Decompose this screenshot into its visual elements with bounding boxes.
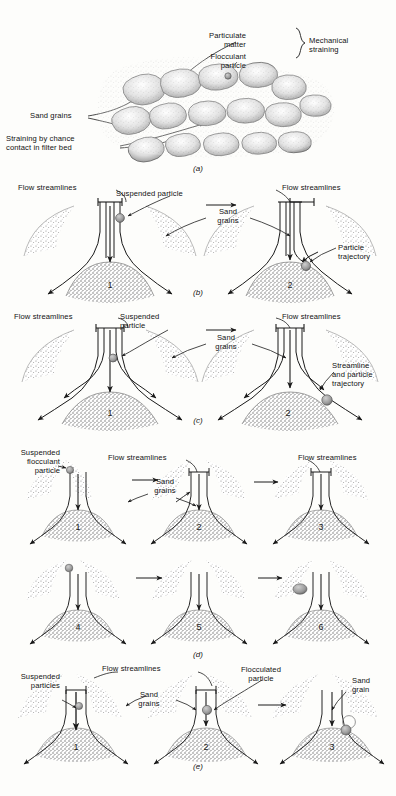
label-flow-streamlines-b-left: Flow streamlines [18,183,108,192]
label-flow-streamlines-c-left: Flow streamlines [14,312,106,321]
captured-particle-glyph [322,395,332,405]
panel-d-cell-3: 3 [273,460,369,544]
flocculant-particle-glyph [225,73,231,79]
label-flocculated-particle: Flocculated particle [226,665,296,683]
filtration-mechanisms-figure: 1 2 [0,0,396,796]
cell-number: 2 [196,522,201,532]
label-suspended-particle-b: Suspended particle [116,189,216,198]
label-flow-streamlines-e: Flow streamlines [102,664,194,673]
captured-particle-glyph [301,261,310,270]
label-mechanical-straining: Mechanical straining [309,36,379,54]
panel-c-cell-1: 1 [22,324,198,431]
label-flow-streamlines-d-right: Flow streamlines [298,453,392,462]
panel-e-graphic: 1 2 3 [18,672,384,764]
label-suspended-particle-c: Suspended particle [120,312,182,330]
flocculant-particle-glyph [65,564,73,572]
cell-number: 6 [318,622,323,632]
panel-letter-b: (b) [178,288,218,297]
label-sand-grains-e: Sand grains [126,690,172,708]
cell-number: 2 [287,280,292,290]
label-flow-streamlines-d-mid: Flow streamlines [108,453,200,462]
label-sand-grains-a: Sand grains [30,111,96,120]
cell-number: 3 [329,742,334,752]
cell-number: 2 [285,408,290,418]
panel-e-cell-2: 2 [148,674,258,764]
panel-letter-a: (a) [178,164,218,173]
brace-mechanical-straining [296,28,305,58]
label-sand-grain-e: Sand grain [352,676,392,694]
sand-cluster-stipple [98,57,334,157]
attached-particle-glyph [293,584,307,594]
panel-d-graphic: 1 2 3 [26,460,369,644]
panel-letter-c: (c) [178,416,218,425]
panel-b-cell-1: 1 [24,198,196,303]
suspended-particle-glyph [75,702,82,709]
label-particle-trajectory: Particle trajectory [338,243,394,261]
cell-number: 1 [73,742,78,752]
panel-letter-d: (d) [178,650,218,659]
label-suspended-particles-e: Suspended particles [2,672,60,690]
suspended-particle-glyph [109,354,117,362]
label-flow-streamlines-c-right: Flow streamlines [282,312,376,321]
suspended-particle-glyph [116,214,125,223]
panel-d-cell-4: 4 [26,560,126,644]
captured-floc-glyph [341,725,351,735]
label-sand-grains-b: Sand grains [198,207,258,225]
label-suspended-flocculant-particle: Suspended flocculant particle [6,448,60,476]
cell-number: 1 [107,280,112,290]
panel-d-cell-5: 5 [151,560,247,644]
panel-d-cell-2: 2 [151,460,247,544]
particle-trajectory-arrow [302,252,318,262]
cell-number: 5 [196,622,201,632]
cell-number: 1 [107,408,112,418]
panel-letter-e: (e) [178,762,218,771]
cell-number: 2 [203,742,208,752]
cell-number: 3 [318,522,323,532]
cell-number: 1 [75,522,80,532]
label-flocculant-particle: Flocculant particle [188,52,246,70]
label-sand-grains-c: Sand grains [200,333,252,351]
flocculated-particle-glyph [202,705,211,714]
label-sand-grains-d: Sand grains [142,477,188,495]
label-flow-streamlines-b-right: Flow streamlines [282,183,376,192]
panel-d-cell-6: 6 [273,560,369,644]
label-particulate-matter: Particulate matter [188,31,246,49]
flocculant-particle-glyph [66,466,73,473]
label-streamline-and-particle-trajectory: Streamline and particle trajectory [332,361,394,389]
label-straining-by-chance-contact: Straining by chance contact in filter be… [6,134,124,152]
cell-number: 4 [75,622,80,632]
